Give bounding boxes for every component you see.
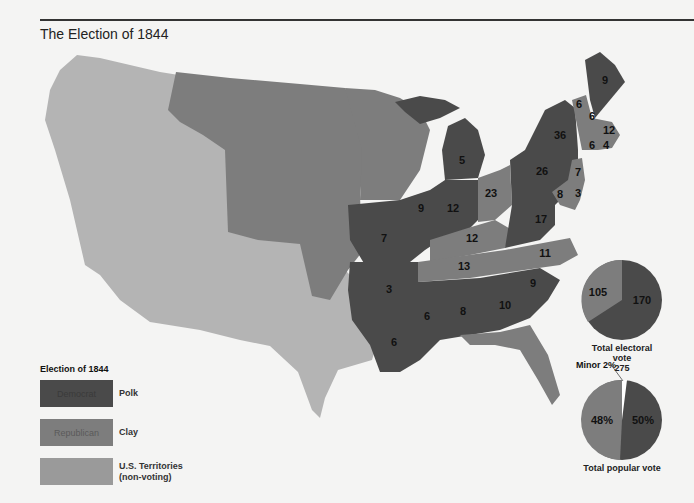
state-electoral-label: 23 [485, 187, 497, 199]
state-electoral-label: 7 [381, 232, 387, 244]
state-electoral-label: 12 [603, 124, 615, 136]
state-electoral-label: 6 [576, 98, 582, 110]
popular-caption: Total popular vote [582, 463, 662, 473]
electoral-vote-pie: 105 170 [581, 260, 662, 340]
republican-swatch: Republican [40, 419, 113, 446]
state-electoral-label: 12 [447, 202, 459, 214]
state-electoral-label: 4 [603, 139, 610, 151]
democrat-label: Polk [119, 388, 138, 399]
state-electoral-label: 8 [557, 188, 563, 200]
electoral-rep-label: 105 [589, 286, 607, 298]
state-electoral-label: 8 [460, 305, 466, 317]
state-electoral-label: 3 [386, 283, 392, 295]
state-electoral-label: 9 [530, 277, 536, 289]
popular-rep-label: 48% [591, 414, 613, 426]
legend-item-territory: U.S. Territories (non-voting) [40, 458, 183, 485]
state-electoral-label: 3 [575, 187, 581, 199]
popular-dem-label: 50% [632, 414, 654, 426]
democrat-swatch: Democrat [40, 380, 113, 407]
state-electoral-label: 12 [466, 232, 478, 244]
state-michigan [442, 118, 485, 180]
electoral-caption: Total electoral vote 275 [582, 343, 662, 373]
state-electoral-label: 9 [418, 202, 424, 214]
state-electoral-label: 17 [535, 213, 547, 225]
state-electoral-label: 9 [602, 74, 608, 86]
state-electoral-label: 11 [539, 247, 551, 259]
electoral-dem-label: 170 [633, 294, 651, 306]
legend-item-republican: Republican Clay [40, 419, 183, 446]
state-electoral-label: 7 [575, 166, 581, 178]
republican-label: Clay [119, 427, 138, 438]
state-electoral-label: 13 [458, 260, 470, 272]
state-electoral-label: 10 [499, 299, 511, 311]
territory-swatch [40, 458, 113, 485]
state-electoral-label: 26 [536, 165, 548, 177]
state-electoral-label: 36 [554, 129, 566, 141]
state-electoral-label: 5 [459, 154, 465, 166]
territory-florida [460, 325, 560, 405]
legend-item-democrat: Democrat Polk [40, 380, 183, 407]
legend-title: Election of 1844 [40, 364, 183, 374]
legend: Election of 1844 Democrat Polk Republica… [40, 364, 183, 497]
territory-label: U.S. Territories (non-voting) [119, 461, 183, 483]
popular-vote-pie: 48% 50% Minor 2% [576, 360, 662, 460]
state-electoral-label: 6 [391, 336, 397, 348]
state-electoral-label: 6 [589, 139, 595, 151]
state-electoral-label: 6 [589, 110, 595, 122]
state-electoral-label: 6 [424, 310, 430, 322]
